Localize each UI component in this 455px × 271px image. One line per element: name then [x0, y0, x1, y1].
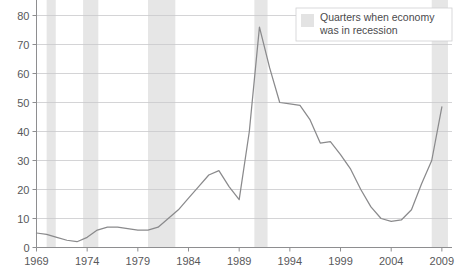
x-tick-label-1994: 1994 — [278, 255, 302, 267]
x-tick-label-2004: 2004 — [379, 255, 403, 267]
x-tick-label-2009: 2009 — [430, 255, 454, 267]
y-tick-label-70: 70 — [17, 39, 29, 51]
x-tick-label-1979: 1979 — [126, 255, 150, 267]
y-tick-label-40: 40 — [17, 126, 29, 138]
y-tick-label-0: 0 — [23, 242, 29, 254]
recession-band-0 — [47, 0, 56, 248]
x-tick-label-1989: 1989 — [227, 255, 251, 267]
recession-band-3 — [254, 0, 267, 248]
recession-band-2 — [148, 0, 175, 248]
y-tick-label-20: 20 — [17, 184, 29, 196]
legend-label-line2: was in recession — [319, 24, 398, 36]
legend-label-line1: Quarters when economy — [320, 11, 435, 23]
recession-band-swatch-icon — [301, 14, 314, 27]
y-tick-label-30: 30 — [17, 155, 29, 167]
legend: Quarters when economy was in recession — [296, 8, 452, 41]
y-tick-label-80: 80 — [17, 10, 29, 22]
chart-canvas: 01020304050607080 1969197419791984198919… — [0, 0, 455, 271]
y-tick-labels-group: 01020304050607080 — [17, 10, 36, 254]
y-tick-label-50: 50 — [17, 97, 29, 109]
x-tick-labels-group: 196919741979198419891994199920042009 — [24, 248, 454, 267]
y-tick-label-10: 10 — [17, 213, 29, 225]
recession-line-chart: 01020304050607080 1969197419791984198919… — [0, 0, 455, 271]
x-tick-label-1969: 1969 — [24, 255, 48, 267]
gridlines-group — [37, 16, 453, 219]
x-tick-label-1974: 1974 — [75, 255, 99, 267]
x-tick-label-1999: 1999 — [328, 255, 352, 267]
x-tick-label-1984: 1984 — [176, 255, 200, 267]
y-tick-label-60: 60 — [17, 68, 29, 80]
recession-band-1 — [83, 0, 98, 248]
